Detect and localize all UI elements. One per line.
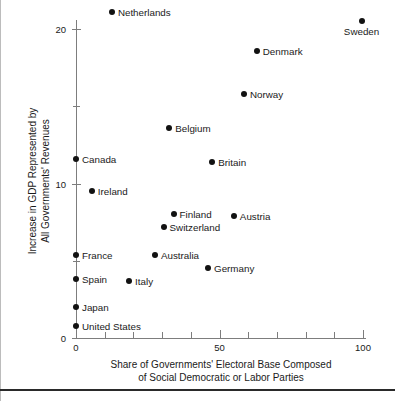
- data-point-label: Spain: [82, 274, 107, 285]
- x-axis-tick-label: 0: [73, 342, 78, 353]
- y-axis-major-tick: [72, 338, 81, 339]
- x-axis-minor-tick: [105, 332, 106, 339]
- y-axis-tick-label: 0: [38, 333, 66, 344]
- x-axis-minor-tick: [133, 332, 134, 339]
- data-point: [241, 91, 247, 97]
- data-point: [161, 224, 167, 230]
- data-point: [205, 265, 211, 271]
- x-axis-minor-tick: [191, 332, 192, 339]
- data-point: [73, 156, 79, 162]
- x-axis-minor-tick: [162, 332, 163, 339]
- x-axis-minor-tick: [277, 332, 278, 339]
- data-point: [359, 18, 365, 24]
- data-point-label: Italy: [135, 275, 153, 286]
- data-point: [73, 252, 79, 258]
- x-axis-minor-tick: [248, 332, 249, 339]
- data-point: [73, 304, 79, 310]
- data-point: [73, 323, 79, 329]
- data-point-label: Germany: [214, 263, 254, 274]
- data-point: [73, 276, 79, 282]
- x-axis-title-line-1: Share of Governments' Electoral Base Com…: [76, 358, 366, 371]
- data-point: [166, 125, 172, 131]
- x-axis-tick-label: 100: [355, 342, 371, 353]
- data-point: [109, 9, 115, 15]
- data-point-label: Finland: [180, 209, 212, 220]
- data-point-label: Britain: [218, 156, 246, 167]
- data-point: [171, 211, 177, 217]
- y-axis-minor-tick: [73, 106, 80, 107]
- data-point-label: France: [82, 249, 113, 260]
- data-point: [126, 278, 132, 284]
- data-point: [152, 252, 158, 258]
- x-axis-title-line-2: of Social Democratic or Labor Parties: [76, 371, 366, 384]
- data-point: [231, 213, 237, 219]
- y-axis-minor-tick: [73, 261, 80, 262]
- data-point-label: Netherlands: [118, 7, 171, 18]
- y-axis-major-tick: [72, 184, 81, 185]
- data-point-label: Canada: [82, 153, 116, 164]
- y-axis-title: Increase in GDP Represented by All Gover…: [26, 31, 52, 331]
- x-axis-major-tick: [220, 330, 221, 339]
- data-point: [89, 188, 95, 194]
- x-axis-minor-tick: [306, 332, 307, 339]
- data-point-label: Australia: [161, 249, 199, 260]
- plot-area: 050100 01020 NetherlandsSwedenDenmarkNor…: [0, 0, 395, 401]
- y-axis-line: [76, 20, 77, 339]
- y-axis-title-line-1: Increase in GDP Represented by: [26, 31, 39, 331]
- x-axis-title: Share of Governments' Electoral Base Com…: [76, 358, 366, 384]
- data-point-label: United States: [82, 320, 141, 331]
- data-point-label: Denmark: [263, 45, 303, 56]
- data-point-label: Japan: [82, 302, 109, 313]
- x-axis-line: [76, 338, 366, 339]
- data-point-label: Ireland: [98, 186, 128, 197]
- y-axis-title-line-2: All Governments' Revenues: [39, 31, 52, 331]
- scatter-plot-figure: 050100 01020 NetherlandsSwedenDenmarkNor…: [0, 0, 395, 401]
- data-point-label: Austria: [240, 210, 271, 221]
- x-axis-minor-tick: [334, 332, 335, 339]
- data-point-label: Switzerland: [170, 221, 221, 232]
- x-axis-tick-label: 50: [214, 342, 225, 353]
- data-point-label: Norway: [250, 88, 283, 99]
- y-axis-major-tick: [72, 29, 81, 30]
- data-point-label: Sweden: [344, 26, 379, 37]
- data-point: [254, 48, 260, 54]
- x-axis-major-tick: [363, 330, 364, 339]
- data-point-label: Belgium: [175, 122, 210, 133]
- data-point: [209, 159, 215, 165]
